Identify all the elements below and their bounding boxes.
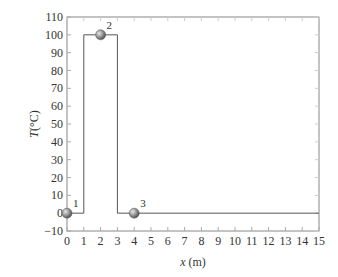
- point-label-1: 1: [73, 197, 79, 209]
- x-tick-label: 9: [215, 234, 221, 248]
- x-tick-label: 2: [98, 234, 104, 248]
- series-group: [67, 35, 319, 213]
- y-tick-label: −10: [44, 224, 63, 238]
- x-tick-label: 14: [296, 234, 308, 248]
- y-tick-label: 90: [51, 46, 63, 60]
- y-tick-label: 60: [51, 99, 63, 113]
- x-tick-label: 3: [114, 234, 120, 248]
- points-group: 123: [62, 19, 146, 218]
- x-tick-label: 4: [131, 234, 137, 248]
- x-tick-label: 7: [182, 234, 188, 248]
- y-tick-label: 10: [51, 188, 63, 202]
- y-tick-label: 20: [51, 171, 63, 185]
- y-tick-label: 80: [51, 64, 63, 78]
- x-tick-label: 8: [198, 234, 204, 248]
- x-tick-label: 0: [64, 234, 70, 248]
- x-tick-label: 10: [229, 234, 241, 248]
- x-axis-label: x (m): [179, 255, 206, 269]
- y-axis-label: T(°C): [27, 110, 41, 137]
- point-label-3: 3: [140, 197, 146, 209]
- y-tick-label: 100: [45, 28, 63, 42]
- series-line: [67, 35, 319, 213]
- y-tick-label: 50: [51, 117, 63, 131]
- plot-frame: [67, 17, 319, 231]
- x-tick-label: 15: [313, 234, 325, 248]
- point-marker-3: [129, 208, 139, 218]
- chart: 0123456789101112131415−10010203040506070…: [0, 0, 338, 277]
- x-tick-label: 12: [263, 234, 275, 248]
- x-tick-label: 11: [246, 234, 258, 248]
- y-tick-label: 70: [51, 81, 63, 95]
- y-tick-label: 30: [51, 153, 63, 167]
- y-tick-label: 110: [45, 10, 63, 24]
- y-tick-label: 40: [51, 135, 63, 149]
- x-tick-label: 5: [148, 234, 154, 248]
- x-tick-label: 6: [165, 234, 171, 248]
- point-marker-2: [96, 30, 106, 40]
- x-tick-label: 13: [279, 234, 291, 248]
- point-label-2: 2: [107, 19, 113, 31]
- ticks: 0123456789101112131415−10010203040506070…: [44, 10, 325, 248]
- point-marker-1: [62, 208, 72, 218]
- x-tick-label: 1: [81, 234, 87, 248]
